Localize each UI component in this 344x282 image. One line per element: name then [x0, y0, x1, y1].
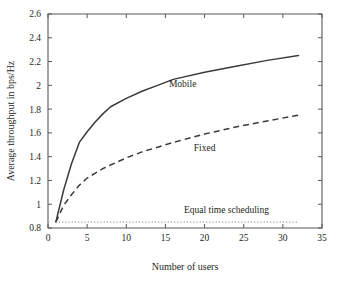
- tick-labels: 051015202530350.811.21.41.61.822.22.42.6: [29, 9, 327, 243]
- x-tick-label: 20: [200, 233, 210, 243]
- y-axis-title: Average throughput in bps/Hz: [5, 60, 16, 181]
- x-tick-label: 35: [317, 233, 327, 243]
- x-tick-label: 5: [85, 233, 90, 243]
- y-tick-label: 2.6: [29, 9, 41, 19]
- axis-ticks: [48, 14, 322, 228]
- y-tick-label: 1.8: [29, 105, 41, 115]
- y-tick-label: 1.6: [29, 128, 41, 138]
- x-tick-label: 25: [239, 233, 249, 243]
- plot-frame: [48, 14, 322, 228]
- annotation-equal-time-scheduling: Equal time scheduling: [184, 205, 269, 215]
- y-tick-label: 1.4: [29, 152, 41, 162]
- x-tick-label: 10: [122, 233, 132, 243]
- y-tick-label: 1: [36, 200, 41, 210]
- chart-figure: 051015202530350.811.21.41.61.822.22.42.6…: [0, 0, 344, 282]
- y-tick-label: 2.4: [29, 33, 41, 43]
- y-tick-label: 0.8: [29, 223, 41, 233]
- series-annotations: MobileFixedEqual time scheduling: [169, 79, 269, 215]
- y-tick-label: 2.2: [29, 57, 41, 67]
- annotation-fixed: Fixed: [194, 143, 216, 153]
- annotation-mobile: Mobile: [169, 79, 196, 89]
- throughput-line-chart: 051015202530350.811.21.41.61.822.22.42.6…: [0, 0, 344, 282]
- x-tick-label: 30: [278, 233, 288, 243]
- x-axis-title: Number of users: [152, 261, 219, 272]
- y-tick-label: 1.2: [29, 176, 41, 186]
- x-tick-label: 15: [161, 233, 171, 243]
- axes-frame: [48, 14, 322, 228]
- y-tick-label: 2: [36, 81, 41, 91]
- x-tick-label: 0: [46, 233, 51, 243]
